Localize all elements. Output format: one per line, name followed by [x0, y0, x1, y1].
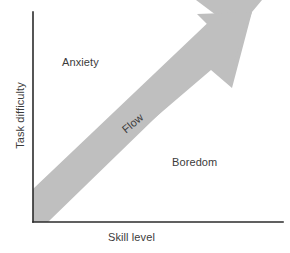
flow-diagram-canvas: Anxiety Flow Boredom Skill level Task di… — [0, 0, 290, 253]
y-axis-label: Task difficulty — [14, 70, 27, 162]
x-axis-label: Skill level — [108, 231, 155, 244]
diagram-graphics — [0, 0, 290, 253]
zone-label-anxiety: Anxiety — [62, 56, 99, 69]
zone-label-boredom: Boredom — [172, 156, 217, 169]
